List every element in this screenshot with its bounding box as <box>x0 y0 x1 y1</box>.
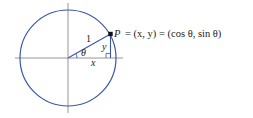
right-angle-marker <box>106 54 111 59</box>
radius-label: 1 <box>86 33 91 44</box>
point-equation-text: = (x, y) = (cos θ, sin θ) <box>125 28 222 40</box>
unit-circle-diagram: 1 θ y x P = (x, y) = (cos θ, sin θ) <box>0 0 253 118</box>
angle-arc <box>76 54 77 58</box>
point-equation: P = (x, y) = (cos θ, sin θ) <box>113 28 222 40</box>
x-leg-label: x <box>90 57 96 68</box>
y-leg-label: y <box>101 41 107 52</box>
point-P-label: P <box>113 28 121 39</box>
point-P-marker <box>108 32 112 36</box>
angle-label: θ <box>81 47 86 58</box>
